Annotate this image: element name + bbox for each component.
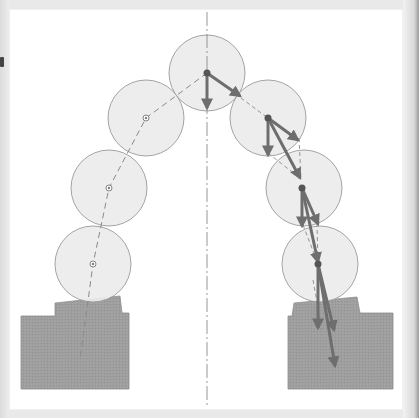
left-abutment	[21, 296, 129, 389]
arch-diagram	[0, 0, 419, 418]
right-abutment	[288, 297, 393, 389]
